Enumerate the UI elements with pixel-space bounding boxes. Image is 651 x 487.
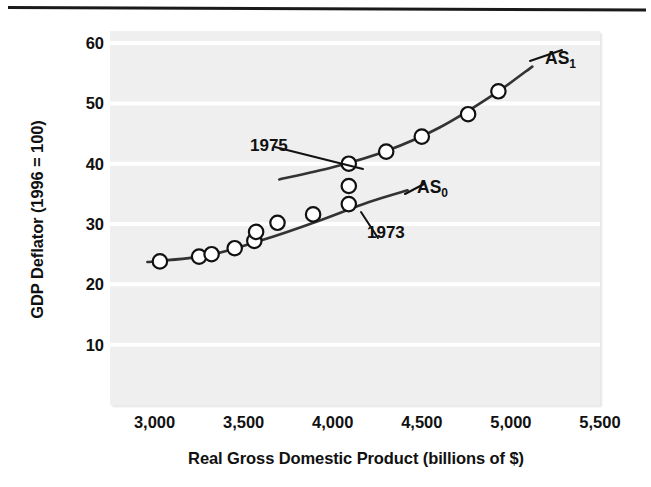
data-point (270, 216, 284, 230)
y-tick-label: 10 (64, 337, 104, 354)
y-tick-label: 50 (64, 95, 104, 112)
annotation-year-1973: 1973 (367, 224, 405, 241)
data-point (342, 179, 356, 193)
y-tick-label: 30 (64, 216, 104, 233)
x-tick-label: 5,000 (471, 414, 551, 431)
x-tick-label: 4,500 (382, 414, 462, 431)
curve-label-as0: AS0 (417, 179, 448, 197)
data-point (415, 129, 429, 143)
y-axis-title: GDP Deflator (1996 = 100) (28, 40, 47, 400)
y-tick-label: 40 (64, 156, 104, 173)
plot-area (110, 31, 600, 405)
series-group (147, 67, 532, 269)
x-tick-label: 3,000 (115, 414, 195, 431)
data-point (379, 144, 393, 158)
x-axis-title: Real Gross Domestic Product (billions of… (110, 449, 602, 468)
data-point (342, 197, 356, 211)
y-axis-tick-labels: 102030405060 (58, 0, 104, 487)
curve-label-as1: AS1 (545, 50, 576, 68)
x-tick-label: 3,500 (204, 414, 284, 431)
data-point (204, 247, 218, 261)
data-point (228, 241, 242, 255)
data-point (461, 107, 475, 121)
curve-label-as0-base: AS (417, 177, 441, 197)
curve-label-as0-subscript: 0 (441, 186, 448, 200)
curve-label-as1-base: AS (545, 48, 569, 68)
gridlines-group (110, 43, 600, 345)
data-point (153, 254, 167, 268)
annotation-year-1975: 1975 (250, 137, 288, 154)
chart-canvas (110, 31, 600, 405)
data-point (491, 84, 505, 98)
figure-root: GDP Deflator (1996 = 100) 102030405060 3… (0, 0, 651, 487)
data-point (249, 225, 263, 239)
x-tick-label: 5,500 (560, 414, 640, 431)
y-tick-label: 20 (64, 276, 104, 293)
y-tick-label: 60 (64, 35, 104, 52)
curve-label-as1-subscript: 1 (569, 57, 576, 71)
data-point (306, 207, 320, 221)
x-tick-label: 4,000 (293, 414, 373, 431)
